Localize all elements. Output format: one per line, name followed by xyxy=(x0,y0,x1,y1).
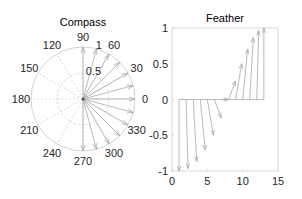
y-tick-label: 0 xyxy=(162,94,168,106)
compass-arrow xyxy=(83,99,133,112)
y-tick-label: 0.5 xyxy=(153,58,168,70)
x-tick-label: 5 xyxy=(204,175,210,187)
compass-spoke xyxy=(38,99,83,125)
compass-angle-label: 180 xyxy=(12,93,30,105)
compass-angle-label: 210 xyxy=(20,124,38,136)
feather-plot: Feather 051015-1-0.500.51 xyxy=(149,12,284,187)
compass-radial-label: 1 xyxy=(96,39,102,51)
compass-plot: Compass 0306090120150180210240270300330 … xyxy=(12,16,148,167)
compass-arrow xyxy=(83,86,133,99)
compass-angle-label: 240 xyxy=(43,147,61,159)
feather-arrow xyxy=(243,49,248,100)
compass-arrowhead xyxy=(104,54,109,60)
compass-arrowhead xyxy=(104,138,109,144)
compass-spoke xyxy=(57,54,83,99)
y-tick-label: -0.5 xyxy=(149,129,168,141)
figure: Compass 0306090120150180210240270300330 … xyxy=(0,0,302,199)
feather-arrow xyxy=(186,100,188,169)
compass-title: Compass xyxy=(60,16,107,28)
compass-angle-label: 60 xyxy=(108,39,120,51)
x-tick-label: 15 xyxy=(272,175,284,187)
feather-arrow xyxy=(236,64,242,100)
feather-arrow xyxy=(257,30,259,99)
y-tick-label: 1 xyxy=(162,22,168,34)
compass-angle-label: 120 xyxy=(43,39,61,51)
compass-angle-label: 30 xyxy=(131,62,143,74)
feather-arrow xyxy=(250,38,254,100)
compass-spoke xyxy=(57,99,83,144)
compass-angle-label: 90 xyxy=(77,31,89,43)
compass-radial-label: 0.5 xyxy=(86,65,101,77)
x-tick-label: 10 xyxy=(237,175,249,187)
feather-arrows xyxy=(177,28,265,171)
feather-arrow xyxy=(200,100,205,151)
compass-arrowhead xyxy=(122,73,128,78)
compass-center xyxy=(82,98,85,101)
feather-arrow xyxy=(193,100,197,162)
feather-arrow xyxy=(229,81,236,100)
compass-angle-label: 0 xyxy=(142,93,148,105)
feather-arrow xyxy=(207,100,213,136)
x-tick-label: 0 xyxy=(169,175,175,187)
compass-angle-label: 300 xyxy=(105,147,123,159)
compass-angle-label: 150 xyxy=(20,62,38,74)
compass-spoke xyxy=(38,73,83,99)
compass-angle-label: 270 xyxy=(74,155,92,167)
compass-angle-label: 330 xyxy=(128,124,146,136)
compass-arrow xyxy=(83,99,96,149)
feather-arrow xyxy=(214,100,221,119)
feather-title: Feather xyxy=(206,12,244,24)
y-tick-label: -1 xyxy=(158,165,168,177)
